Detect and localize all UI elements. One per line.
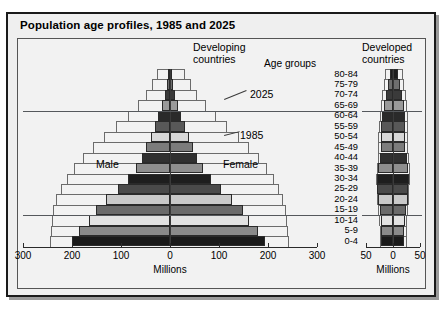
bar-male-1985 [380,205,394,215]
pyramid-developed [366,69,422,254]
bar-female-1985 [170,236,265,246]
bar-female-1985 [170,226,258,236]
x-axis-developed-tick [393,243,394,247]
zero-axis-line [170,69,171,247]
bar-female-1985 [393,100,404,110]
plot-frame: Developing countries Developed countries… [17,38,426,289]
age-group-label: 55-59 [324,121,358,131]
bar-male-1985 [381,236,393,246]
x-axis-developing-tick-label: 300 [7,250,39,261]
bar-female-1985 [393,79,400,89]
x-axis-developed-tick-label: 50 [404,250,436,261]
bar-male-1985 [381,121,393,131]
bar-female-1985 [170,132,189,142]
bar-female-1985 [170,121,185,131]
chart-screenshot: Population age profiles, 1985 and 2025 D… [0,0,444,309]
x-axis-developing-tick-label: 100 [105,250,137,261]
x-axis-developing-line [23,247,317,248]
x-axis-developing-tick [219,243,220,247]
x-axis-developing-tick [23,243,24,247]
bar-female-1985 [170,194,232,204]
bar-male-1985 [382,111,393,121]
bar-male-1985 [377,174,393,184]
panel-heading-developed-line2: countries [362,54,412,66]
bar-female-1985 [170,163,203,173]
bar-male-1985 [142,153,170,163]
bar-male-1985 [377,184,393,194]
age-group-label: 5-9 [324,225,358,235]
x-axis-developing-tick [121,243,122,247]
bar-male-1985 [386,90,393,100]
x-axis-developing-tick [268,243,269,247]
age-groups-title: Age groups [264,58,316,69]
age-group-label: 65-69 [324,100,358,110]
bar-male-1985 [118,184,170,194]
bar-male-1985 [380,153,393,163]
bar-female-1985 [393,226,404,236]
bar-female-1985 [170,215,249,225]
age-group-label: 35-39 [324,163,358,173]
bar-female-1985 [393,111,405,121]
x-axis-developed-tick [366,243,367,247]
age-group-label: 25-29 [324,183,358,193]
bar-female-1985 [170,153,197,163]
age-group-label: 0-4 [324,236,358,246]
bar-female-1985 [170,174,211,184]
age-group-label: 10-14 [324,215,358,225]
annotation-1985: 1985 [240,129,263,141]
reference-line [23,111,357,112]
reference-line [362,111,422,112]
bar-male-1985 [79,226,170,236]
age-group-label: 45-49 [324,142,358,152]
x-axis-developing-tick [72,243,73,247]
bar-male-1985 [162,100,170,110]
bar-male-1985 [128,174,170,184]
x-axis-developed-line [366,247,420,248]
age-group-label: 40-44 [324,152,358,162]
age-group-label: 75-79 [324,79,358,89]
x-axis-developed-title: Millions [353,264,433,275]
bar-male-1985 [378,163,393,173]
panel-heading-developing-line2: countries [193,54,246,66]
annotation-male: Male [96,158,119,170]
bar-female-1985 [393,132,405,142]
panel-heading-developed: Developed countries [362,42,412,65]
bar-male-1985 [381,226,393,236]
x-axis-developing-tick-label: 200 [252,250,284,261]
bar-male-1985 [155,121,170,131]
bar-male-1985 [158,111,170,121]
zero-axis-line [393,69,394,247]
bar-male-1985 [384,100,393,110]
panel-heading-developed-line1: Developed [362,42,412,54]
bar-female-1985 [170,111,181,121]
annotation-female: Female [223,158,258,170]
age-group-label: 30-34 [324,173,358,183]
bar-female-1985 [393,236,404,246]
bar-female-1985 [393,184,408,194]
bar-female-1985 [393,174,409,184]
bar-female-1985 [170,142,193,152]
panel-heading-developing-line1: Developing [193,42,246,54]
bar-female-1985 [170,184,221,194]
x-axis-developed-tick [420,243,421,247]
x-axis-developing-tick-label: 100 [203,250,235,261]
age-group-label: 15-19 [324,204,358,214]
x-axis-developing-tick [170,243,171,247]
bar-male-1985 [96,205,170,215]
x-axis-developing-tick [317,243,318,247]
bar-female-1985 [393,163,408,173]
bar-female-1985 [170,100,178,110]
bar-female-1985 [393,142,405,152]
pyramid-developing [23,69,322,254]
bar-male-1985 [381,142,393,152]
bar-male-1985 [146,142,170,152]
bar-female-1985 [393,215,405,225]
bar-female-1985 [393,194,408,204]
annotation-2025: 2025 [250,88,273,100]
reference-line [23,215,357,216]
panel-heading-developing: Developing countries [193,42,246,65]
bar-female-1985 [393,153,407,163]
reference-line [362,215,422,216]
age-group-label: 70-74 [324,89,358,99]
age-group-label: 20-24 [324,194,358,204]
